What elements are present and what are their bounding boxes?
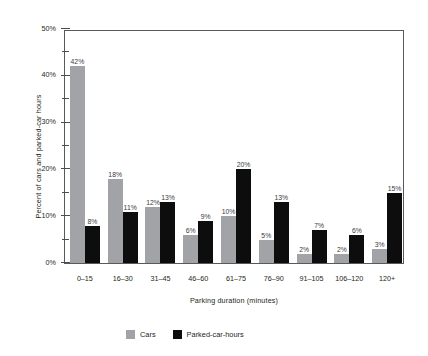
legend-label: Cars xyxy=(140,330,156,339)
bar-value-label: 3% xyxy=(375,241,385,248)
bar-group: 12%13%31–45 xyxy=(145,31,175,263)
bar-cars: 10% xyxy=(221,216,236,263)
bar-cars: 42% xyxy=(70,66,85,263)
y-axis-tick: 30% xyxy=(61,122,70,123)
y-axis-title: Percent of cars and parked-car hours xyxy=(34,57,43,257)
y-axis-minor-tick xyxy=(62,98,69,99)
y-axis-minor-tick xyxy=(62,192,69,193)
bar-group: 18%11%16–30 xyxy=(108,31,138,263)
legend-item: Parked-car-hours xyxy=(173,330,244,339)
bar-cars: 2% xyxy=(334,254,349,263)
bar-value-label: 20% xyxy=(237,161,251,168)
bar-parked-car-hours: 13% xyxy=(274,202,289,263)
bar-value-label: 13% xyxy=(161,194,175,201)
bar-value-label: 6% xyxy=(186,227,196,234)
y-axis-tick: 0% xyxy=(61,262,70,263)
bar-cars: 2% xyxy=(297,254,312,263)
bar-group: 42%8%0–15 xyxy=(70,31,100,263)
bar-group: 3%15%120+ xyxy=(372,31,402,263)
y-axis-tick-label: 30% xyxy=(42,117,56,126)
x-axis-title: Parking duration (minutes) xyxy=(64,296,404,305)
bar-parked-car-hours: 9% xyxy=(198,221,213,263)
bar-value-label: 8% xyxy=(87,218,97,225)
bar-group: 6%9%46–60 xyxy=(183,31,213,263)
y-axis-tick: 20% xyxy=(61,168,70,169)
bar-parked-car-hours: 7% xyxy=(312,230,327,263)
bar-value-label: 9% xyxy=(201,213,211,220)
bar-value-label: 12% xyxy=(146,199,160,206)
bar-value-label: 5% xyxy=(261,232,271,239)
legend-label: Parked-car-hours xyxy=(187,330,244,339)
bar-chart: Percent of cars and parked-car hours 42%… xyxy=(0,0,428,356)
bar-value-label: 2% xyxy=(299,246,309,253)
bar-cars: 3% xyxy=(372,249,387,263)
y-axis-tick-label: 40% xyxy=(42,70,56,79)
y-axis-tick-label: 20% xyxy=(42,164,56,173)
y-axis-minor-tick xyxy=(62,51,69,52)
bar-parked-car-hours: 11% xyxy=(123,212,138,263)
bar-cars: 18% xyxy=(108,179,123,263)
bar-cars: 6% xyxy=(183,235,198,263)
bar-value-label: 42% xyxy=(71,58,85,65)
bar-parked-car-hours: 8% xyxy=(85,226,100,263)
bar-parked-car-hours: 13% xyxy=(160,202,175,263)
legend-item: Cars xyxy=(126,330,156,339)
bar-value-label: 7% xyxy=(314,222,324,229)
chart-legend: CarsParked-car-hours xyxy=(126,330,244,339)
bar-value-label: 10% xyxy=(222,208,236,215)
legend-swatch-parked-car-hours xyxy=(173,330,182,339)
bar-value-label: 6% xyxy=(352,227,362,234)
bar-value-label: 11% xyxy=(124,204,137,211)
y-axis-tick: 40% xyxy=(61,75,70,76)
bar-cars: 12% xyxy=(145,207,160,263)
bar-group: 5%13%76–90 xyxy=(259,31,289,263)
bar-parked-car-hours: 20% xyxy=(236,169,251,263)
legend-swatch-cars xyxy=(126,330,135,339)
bar-group: 2%7%91–105 xyxy=(297,31,327,263)
bar-group: 2%6%106–120 xyxy=(334,31,364,263)
y-axis-tick: 50% xyxy=(61,28,70,29)
bar-value-label: 2% xyxy=(337,246,347,253)
bars-layer: 42%8%0–1518%11%16–3012%13%31–456%9%46–60… xyxy=(65,31,403,263)
bar-parked-car-hours: 6% xyxy=(349,235,364,263)
bar-value-label: 18% xyxy=(108,171,122,178)
y-axis-minor-tick xyxy=(62,239,69,240)
y-axis-tick-label: 50% xyxy=(42,24,56,33)
bar-value-label: 15% xyxy=(388,185,402,192)
y-axis-tick-label: 10% xyxy=(42,211,56,220)
x-axis-category-label: 120+ xyxy=(364,274,410,283)
bar-value-label: 13% xyxy=(274,194,288,201)
bar-cars: 5% xyxy=(259,240,274,263)
y-axis-tick-label: 0% xyxy=(46,258,56,267)
y-axis-minor-tick xyxy=(62,145,69,146)
bar-group: 10%20%61–75 xyxy=(221,31,251,263)
bar-parked-car-hours: 15% xyxy=(387,193,402,263)
y-axis-tick: 10% xyxy=(61,215,70,216)
plot-area: 42%8%0–1518%11%16–3012%13%31–456%9%46–60… xyxy=(64,30,404,264)
